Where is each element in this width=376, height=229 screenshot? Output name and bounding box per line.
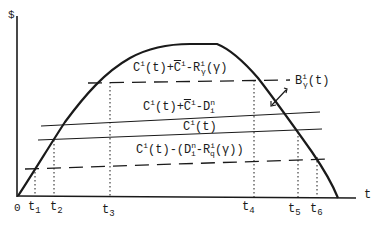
- tick-sub: 4: [249, 206, 254, 216]
- tick-t3: t3: [102, 204, 115, 216]
- tick-t5: t5: [288, 203, 301, 215]
- op-minus: -: [186, 61, 193, 75]
- lower-dashed-label: Ci(t)-(Dni-Riq(γ)): [136, 144, 244, 156]
- op-plus: +: [167, 61, 174, 75]
- y-axis-label: $: [8, 9, 15, 21]
- x-axis-label: t: [364, 189, 371, 201]
- solid-lower-label: Ci(t): [183, 121, 217, 133]
- arg-t: (t): [155, 100, 177, 114]
- arg-t: (t): [308, 74, 330, 88]
- tick-sub: 6: [317, 208, 322, 218]
- arg-gamma: (γ): [206, 61, 228, 75]
- tick-sub: 2: [57, 206, 62, 216]
- op-plus: +: [177, 100, 184, 114]
- solid-line-upper: [41, 112, 320, 126]
- tick-t1: t1: [28, 201, 41, 213]
- op-minus: -: [196, 143, 203, 157]
- tick-sub: 5: [295, 208, 300, 218]
- tick-t2: t2: [50, 201, 63, 213]
- diagram-canvas: [0, 0, 376, 229]
- solid-upper-label: Ci(t)+Ci-Dni: [143, 101, 215, 113]
- sub-i: i: [210, 106, 215, 115]
- tick-sub: 1: [35, 206, 40, 216]
- upper-dashed-label: Ci(t)+Ci-Riγ(γ): [133, 62, 227, 74]
- tick-t6: t6: [310, 203, 323, 215]
- close-group: (γ)): [215, 143, 244, 157]
- open-group: -(D: [170, 143, 192, 157]
- x-axis: [17, 196, 356, 198]
- sym-c-bar: C: [184, 100, 191, 114]
- op-minus: -: [196, 100, 203, 114]
- tick-sub: 3: [109, 209, 114, 219]
- curve-label: Biγ(t): [295, 75, 329, 87]
- solid-line-lower: [38, 129, 322, 140]
- curve-label-arrow: [272, 90, 286, 105]
- origin-label: 0: [14, 202, 21, 214]
- arg-t: (t): [148, 143, 170, 157]
- arg-t: (t): [145, 61, 167, 75]
- tick-t4: t4: [242, 201, 255, 213]
- lower-dashed-line: [25, 159, 330, 169]
- arg-t: (t): [195, 120, 217, 134]
- sym-c-bar: C: [174, 61, 181, 75]
